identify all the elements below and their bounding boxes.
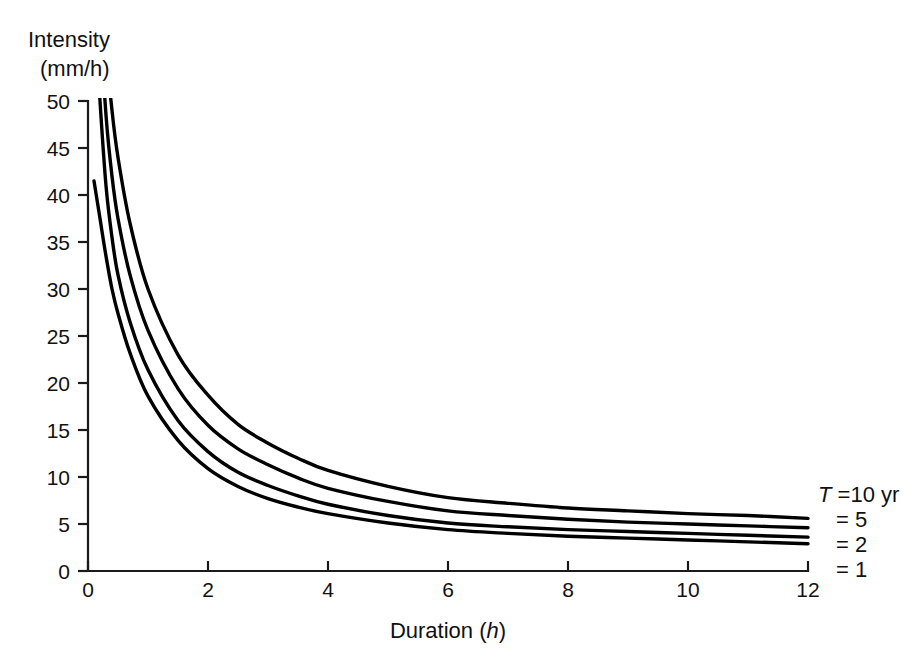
- legend-label-t1: = 1: [836, 557, 867, 582]
- x-axis-label-text: Duration (: [390, 618, 487, 643]
- legend-item-t10: T =10 yr: [818, 482, 899, 507]
- y-tick-label: 45: [47, 137, 70, 160]
- x-tick-label: 8: [562, 578, 574, 601]
- x-tick-label: 4: [322, 578, 334, 601]
- x-tick-label: 12: [796, 578, 819, 601]
- x-tick-label: 0: [82, 578, 94, 601]
- curve-series-0: [94, 0, 808, 518]
- x-tick-label: 10: [676, 578, 699, 601]
- legend: T =10 yr = 5 = 2 = 1: [818, 482, 899, 582]
- legend-label-t2: = 2: [836, 532, 867, 557]
- y-tick-label: 30: [47, 278, 70, 301]
- x-axis-label-tail: ): [499, 618, 506, 643]
- x-axis-ticks: [88, 561, 808, 571]
- curve-series-3: [94, 181, 808, 544]
- y-tick-label: 15: [47, 419, 70, 442]
- legend-label-t5: = 5: [836, 507, 867, 532]
- y-tick-label: 10: [47, 466, 70, 489]
- x-tick-label: 2: [202, 578, 214, 601]
- y-tick-label: 25: [47, 325, 70, 348]
- legend-label-t10: =10 yr: [831, 482, 899, 507]
- y-tick-label: 20: [47, 372, 70, 395]
- y-tick-label: 35: [47, 231, 70, 254]
- chart-svg: Intensity (mm/h) 50 45 40 35 30 25 20: [0, 0, 903, 658]
- y-axis-label-line2: (mm/h): [40, 56, 110, 81]
- curve-group: [94, 0, 808, 544]
- y-tick-label: 50: [47, 90, 70, 113]
- y-axis-label-line1: Intensity: [28, 27, 110, 52]
- y-tick-label: 0: [58, 560, 70, 583]
- curve-series-1: [94, 0, 808, 528]
- y-tick-label: 40: [47, 184, 70, 207]
- x-tick-label: 6: [442, 578, 454, 601]
- y-tick-label: 5: [58, 513, 70, 536]
- y-axis-tick-labels: 50 45 40 35 30 25 20 15 10 5 0: [47, 90, 70, 583]
- x-axis-label: Duration (h): [390, 618, 506, 643]
- curve-series-2: [94, 0, 808, 537]
- x-axis-label-italic: h: [487, 618, 499, 643]
- axis-lines: [88, 101, 808, 571]
- y-axis-ticks: [78, 101, 88, 571]
- x-axis-tick-labels: 0 2 4 6 8 10 12: [82, 578, 820, 601]
- idf-curve-chart: Intensity (mm/h) 50 45 40 35 30 25 20: [0, 0, 903, 658]
